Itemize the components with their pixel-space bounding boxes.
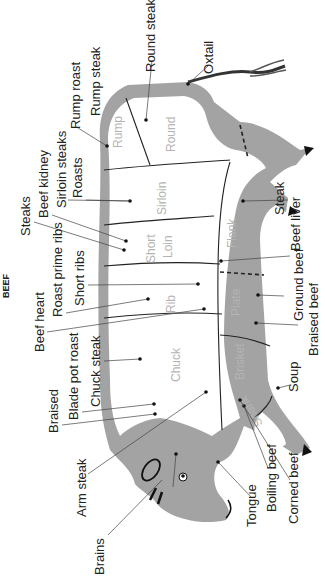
cut-brisket: Brisket [233, 343, 247, 380]
label-roasts: Roasts [70, 157, 85, 198]
label-chuck-steak: Chuck steak [88, 335, 103, 407]
cut-short: Short [144, 234, 158, 263]
label-soup: Soup [286, 362, 301, 392]
label-sirloin-steaks: Sirloin steaks [54, 130, 69, 208]
label-arm-steak: Arm steak [74, 458, 89, 517]
cow-silhouette [98, 60, 314, 522]
label-steak: Steak [272, 181, 287, 215]
label-beef-liver: Beef liver [288, 196, 303, 251]
label-brains: Brains [92, 538, 107, 575]
label-corned-beef: Corned beef [286, 452, 301, 524]
label-beef-heart: Beef heart [32, 292, 47, 352]
label-tongue: Tongue [244, 484, 259, 527]
label-roast-prime-ribs: Roast prime ribs [50, 222, 65, 317]
label-rump-roast: Rump roast [68, 61, 83, 129]
cut-round: Round [164, 117, 178, 152]
label-oxtail: Oxtail [201, 41, 216, 74]
label-steaks: Steaks [18, 196, 33, 236]
cut-sirloin: Sirloin [155, 182, 169, 215]
label-braised: Braised [46, 389, 61, 433]
cut-rump: Rump [111, 116, 125, 148]
label-short-ribs: Short ribs [72, 250, 87, 306]
label-braised-beef: Braised beef [306, 283, 321, 356]
label-rump-steak: Rump steak [88, 46, 103, 116]
diagram-title: BEEF [1, 273, 11, 298]
cut-rib: Rib [164, 295, 178, 313]
cut-loin: Loin [161, 235, 175, 258]
label-beef-kidney: Beef kidney [36, 150, 51, 218]
label-round-steak: Round steak [143, 0, 158, 72]
label-ground-beef: Ground beef [291, 248, 306, 321]
cut-flank: Flank [225, 218, 239, 248]
beef-cuts-diagram: BEEF Rump Round [0, 0, 325, 580]
label-blade-pot-roast: Blade pot roast [66, 332, 81, 420]
label-boiling-beef: Boiling beef [264, 444, 279, 512]
cut-plate: Plate [229, 288, 243, 316]
cut-chuck: Chuck [169, 347, 183, 382]
